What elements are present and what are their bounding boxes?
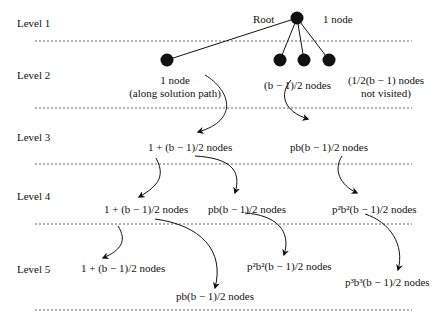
level5-middle-count: p²b²(b − 1)/2 nodes	[247, 260, 332, 272]
solution-path-node	[161, 54, 174, 67]
solution-node-note: (along solution path)	[120, 87, 230, 99]
level-4-label: Level 4	[17, 190, 50, 202]
arrow-l3-right-to-l4-right	[338, 156, 357, 193]
visited-siblings-count: (b − 1)/2 nodes	[264, 79, 331, 91]
arrow-l4-right-to-l5-right	[365, 214, 400, 270]
unvisited-siblings-note: not visited)	[336, 87, 436, 99]
root-node	[291, 12, 304, 25]
child-node-1	[274, 54, 287, 67]
level4-middle-count: pb(b − 1)/2 nodes	[208, 203, 286, 215]
arrow-l4-to-l5-left	[103, 226, 122, 258]
solution-node-count: 1 node	[120, 74, 230, 86]
diagram-graphics	[0, 0, 444, 321]
level5-low-count: pb(b − 1)/2 nodes	[176, 290, 254, 302]
arrow-l3-to-l4-right	[195, 156, 237, 193]
level3-solution-count: 1 + (b − 1)/2 nodes	[148, 141, 232, 153]
level5-right-count: p³b³(b − 1)/2 nodes	[345, 276, 430, 288]
tree-nodes	[161, 12, 336, 67]
root-count: 1 node	[323, 13, 353, 25]
arrow-l4-mid-to-l5-mid	[245, 213, 286, 255]
arrow-l3-to-l4-left	[139, 158, 160, 197]
edge-root-child-1	[280, 18, 297, 60]
root-label: Root	[253, 13, 274, 25]
search-tree-diagram: Level 1 Level 2 Level 3 Level 4 Level 5 …	[0, 0, 444, 321]
expansion-arrows	[103, 75, 400, 288]
level-3-label: Level 3	[17, 131, 50, 143]
level5-solution-count: 1 + (b − 1)/2 nodes	[81, 262, 165, 274]
unvisited-siblings-count: (1/2(b − 1) nodes	[336, 74, 436, 86]
level4-solution-count: 1 + (b − 1)/2 nodes	[104, 203, 188, 215]
arrow-l4-to-l5-low	[155, 219, 217, 288]
level-1-label: Level 1	[17, 17, 50, 29]
level4-right-count: p²b²(b − 1)/2 nodes	[332, 203, 417, 215]
level-5-label: Level 5	[17, 263, 50, 275]
level-2-label: Level 2	[17, 69, 50, 81]
child-node-3	[323, 54, 336, 67]
child-node-2	[298, 54, 311, 67]
level3-other-count: pb(b − 1)/2 nodes	[290, 141, 368, 153]
edge-root-left	[167, 18, 297, 60]
